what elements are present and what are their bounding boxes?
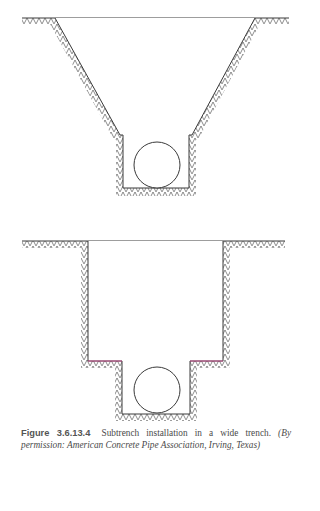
pipe-icon (134, 142, 180, 188)
top-diagram (22, 18, 289, 196)
figure-caption: Figure 3.6.13.4 Subtrench installation i… (21, 428, 291, 451)
bottom-diagram (22, 241, 285, 421)
pipe-icon (134, 367, 180, 413)
figure-label: Figure 3.6.13.4 (21, 428, 90, 438)
figure-title: Subtrench installation in a wide trench. (101, 428, 271, 438)
